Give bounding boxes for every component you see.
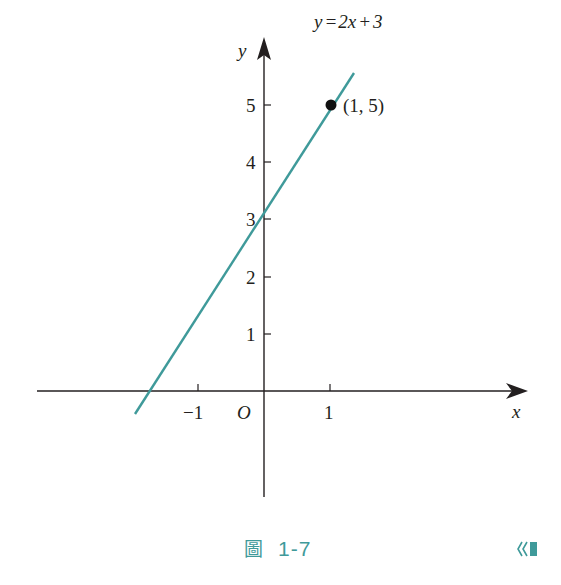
figure-caption: 圖1-7 <box>244 534 311 561</box>
y-tick-label-1: 1 <box>246 324 256 345</box>
y-tick-label-2: 2 <box>246 267 256 288</box>
y-tick-label-4: 4 <box>246 152 256 173</box>
y-axis-label: y <box>236 40 247 61</box>
caption-number: 1-7 <box>278 537 311 560</box>
x-tick-label-1: 1 <box>324 402 334 423</box>
line-y-2x-plus-3 <box>135 73 354 414</box>
graph-canvas: y=2x+3 (1, 5) y x O −1 1 1 2 3 4 5 <box>0 0 561 585</box>
equation-label: y=2x+3 <box>312 11 383 32</box>
x-axis-label: x <box>511 401 521 422</box>
page-marker-icon <box>516 539 540 559</box>
caption-prefix: 圖 <box>244 538 264 560</box>
y-tick-label-5: 5 <box>246 95 256 116</box>
origin-label: O <box>237 402 251 423</box>
x-tick-label-neg1: −1 <box>183 402 203 423</box>
point-1-5 <box>326 100 337 111</box>
y-tick-label-3: 3 <box>246 209 256 230</box>
point-label: (1, 5) <box>343 95 384 117</box>
